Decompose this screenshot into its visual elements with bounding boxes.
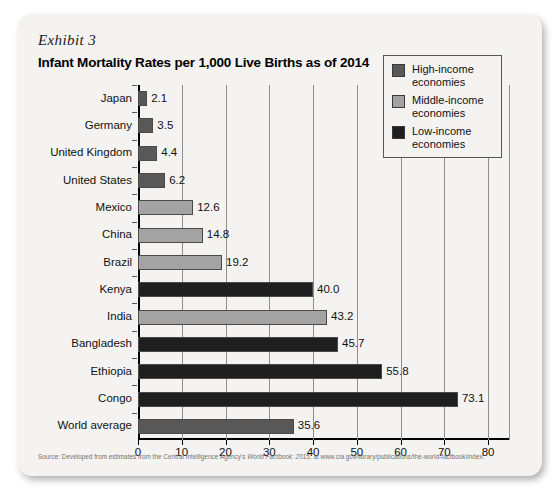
legend-label: Low-incomeeconomies xyxy=(412,125,471,150)
category-label: Ethiopia xyxy=(90,365,132,377)
y-axis-tick xyxy=(132,112,137,113)
bar-value-label: 35.6 xyxy=(298,419,320,431)
x-axis-tick xyxy=(488,440,489,445)
y-axis-tick xyxy=(132,276,137,277)
y-axis-tick xyxy=(132,413,137,414)
source-prefix: Source: Developed from estimates from th… xyxy=(38,453,247,460)
source-suffix: , at www.cia.gov/library/publications/th… xyxy=(310,453,485,460)
bar-value-label: 12.6 xyxy=(197,201,219,213)
bar-value-label: 40.0 xyxy=(317,283,339,295)
x-axis-tick xyxy=(269,440,270,445)
bar-value-label: 4.4 xyxy=(161,146,177,158)
y-axis-tick xyxy=(132,85,137,86)
exhibit-label: Exhibit 3 xyxy=(38,32,96,49)
bar-value-label: 43.2 xyxy=(331,310,353,322)
source-note: Source: Developed from estimates from th… xyxy=(38,452,528,461)
y-axis-tick xyxy=(132,358,137,359)
y-axis-tick xyxy=(132,167,137,168)
category-label: Bangladesh xyxy=(71,337,132,349)
category-label: Mexico xyxy=(96,201,132,213)
category-label: Congo xyxy=(98,392,132,404)
legend-item: Low-incomeeconomies xyxy=(392,125,495,150)
bar xyxy=(138,173,165,188)
bar-value-label: 6.2 xyxy=(169,174,185,186)
bar xyxy=(138,419,294,434)
legend-label: Middle-incomeeconomies xyxy=(412,94,484,119)
exhibit-card: Exhibit 3 Infant Mortality Rates per 1,0… xyxy=(18,14,542,476)
bar-value-label: 19.2 xyxy=(226,256,248,268)
bar xyxy=(138,392,458,407)
category-label: Brazil xyxy=(103,256,132,268)
category-label: China xyxy=(102,228,132,240)
legend-swatch-icon xyxy=(392,95,405,108)
gridline-40 xyxy=(313,85,314,440)
category-label: Germany xyxy=(85,119,132,131)
y-axis-tick xyxy=(132,303,137,304)
legend-label-line1: High-income xyxy=(412,63,474,76)
category-label: India xyxy=(107,310,132,322)
x-axis-tick xyxy=(138,440,139,445)
y-axis-tick xyxy=(132,194,137,195)
bar xyxy=(138,228,203,243)
legend-label-line2: economies xyxy=(412,107,484,120)
x-axis-tick xyxy=(182,440,183,445)
bar xyxy=(138,310,327,325)
bar-value-label: 73.1 xyxy=(462,392,484,404)
category-label: Japan xyxy=(101,92,132,104)
bar xyxy=(138,118,153,133)
category-label: World average xyxy=(57,419,132,431)
bar-value-label: 45.7 xyxy=(342,337,364,349)
source-italic-title: World Factbook: 2015 xyxy=(247,453,310,460)
bar xyxy=(138,200,193,215)
x-axis-tick xyxy=(226,440,227,445)
y-axis-tick xyxy=(132,331,137,332)
y-axis-tick xyxy=(132,249,137,250)
gridline-50 xyxy=(357,85,358,440)
legend-item: High-incomeeconomies xyxy=(392,63,495,88)
legend-label-line1: Low-income xyxy=(412,125,471,138)
y-axis-tick xyxy=(132,222,137,223)
legend-label: High-incomeeconomies xyxy=(412,63,474,88)
gridline-30 xyxy=(269,85,270,440)
chart-legend: High-incomeeconomiesMiddle-incomeeconomi… xyxy=(383,55,502,158)
bar xyxy=(138,364,382,379)
bar xyxy=(138,255,222,270)
category-label: Kenya xyxy=(99,283,132,295)
plot-right-edge xyxy=(509,85,510,440)
x-axis-tick xyxy=(444,440,445,445)
category-axis-labels: JapanGermanyUnited KingdomUnited StatesM… xyxy=(18,85,132,440)
bar-value-label: 2.1 xyxy=(151,92,167,104)
bar-value-label: 55.8 xyxy=(386,365,408,377)
legend-label-line2: economies xyxy=(412,138,471,151)
legend-label-line2: economies xyxy=(412,76,474,89)
bar xyxy=(138,337,338,352)
x-axis-tick xyxy=(357,440,358,445)
legend-item: Middle-incomeeconomies xyxy=(392,94,495,119)
bar xyxy=(138,146,157,161)
category-label: United States xyxy=(63,174,132,186)
y-axis-tick xyxy=(132,385,137,386)
legend-swatch-icon xyxy=(392,64,405,77)
legend-swatch-icon xyxy=(392,126,405,139)
bar xyxy=(138,91,147,106)
x-axis-tick xyxy=(313,440,314,445)
bar-value-label: 3.5 xyxy=(157,119,173,131)
y-axis-tick xyxy=(132,140,137,141)
legend-label-line1: Middle-income xyxy=(412,94,484,107)
bar xyxy=(138,282,313,297)
x-axis-tick xyxy=(401,440,402,445)
bar-value-label: 14.8 xyxy=(207,228,229,240)
chart-title: Infant Mortality Rates per 1,000 Live Bi… xyxy=(38,55,369,70)
category-label: United Kingdom xyxy=(50,146,132,158)
